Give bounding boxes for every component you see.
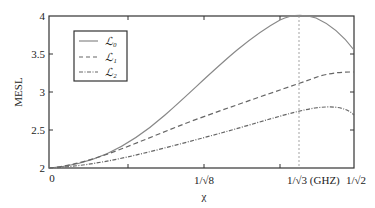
series-l1-line (49, 72, 354, 168)
y-axis-label: MESL (12, 77, 24, 107)
legend-box (74, 31, 127, 81)
x-tick-1-sqrt8: 1/√8 (194, 174, 215, 186)
y-tick-3-5: 3.5 (31, 48, 45, 60)
legend: ℒ₀ ℒ₁ ℒ₂ (74, 31, 127, 81)
y-tick-3: 3 (40, 86, 46, 98)
legend-label-l0: ℒ₀ (105, 35, 117, 47)
y-tick-2: 2 (40, 162, 46, 174)
y-tick-2-5: 2.5 (31, 124, 45, 136)
y-tick-4: 4 (40, 10, 46, 22)
legend-label-l1: ℒ₁ (105, 51, 117, 63)
x-axis-label: χ (201, 190, 207, 202)
x-tick-1-sqrt3-ghz: 1/√3 (GHZ) (287, 174, 340, 187)
legend-label-l2: ℒ₂ (105, 66, 117, 78)
chart: 4 3.5 3 2.5 2 0 1/√8 1/√3 (GHZ) 1/√2 χ M… (0, 0, 375, 208)
x-tick-0: 0 (49, 172, 55, 184)
x-tick-1-sqrt2: 1/√2 (346, 174, 366, 186)
x-ticks (128, 16, 280, 168)
